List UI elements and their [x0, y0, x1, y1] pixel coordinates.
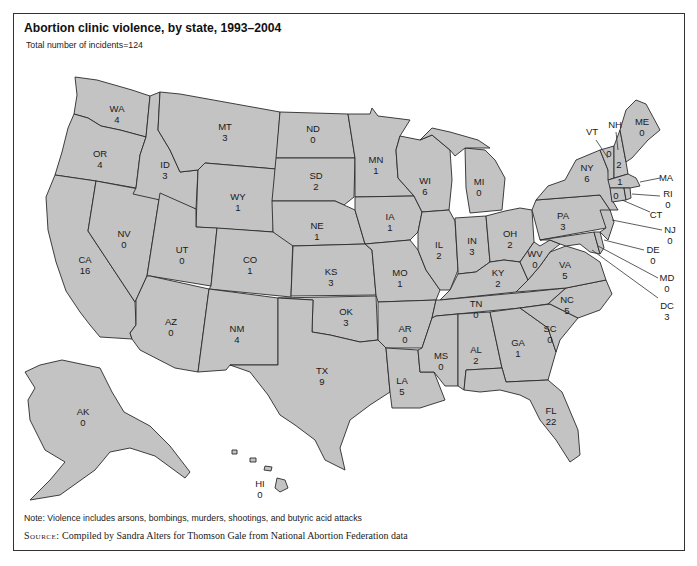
state-ak [25, 360, 190, 500]
svg-text:1: 1 [617, 176, 622, 187]
svg-text:DC3: DC3 [660, 300, 674, 322]
footnote: Note: Violence includes arsons, bombings… [24, 512, 362, 523]
total-incidents: Total number of incidents=124 [26, 39, 143, 50]
state-mi [465, 148, 505, 213]
source-keyword: Source: [24, 530, 60, 541]
svg-text:0: 0 [613, 190, 618, 201]
svg-text:NH: NH [608, 119, 622, 130]
state-hi-maui [264, 466, 272, 471]
state-hi-big [275, 478, 288, 492]
leader-nj [612, 220, 662, 230]
svg-text:2: 2 [616, 159, 621, 170]
map-title: Abortion clinic violence, by state, 1993… [24, 20, 281, 35]
svg-text:MD0: MD0 [660, 272, 675, 294]
leader-ma [640, 178, 660, 182]
leader-ct [622, 200, 650, 212]
source-text: Compiled by Sandra Alters for Thomson Ga… [60, 530, 408, 541]
svg-text:CT: CT [650, 209, 663, 220]
svg-text:VT: VT [586, 126, 598, 137]
svg-text:FL22: FL22 [545, 405, 556, 427]
leader-ri [632, 194, 660, 196]
us-choropleth-map: WA4 OR4 CA16 NV0 ID3 MT3 WY1 UT0 CO1 AZ0… [0, 0, 697, 566]
state-mt [158, 92, 280, 172]
svg-text:0: 0 [606, 148, 611, 159]
svg-text:CA16: CA16 [78, 254, 92, 276]
state-fl [464, 368, 580, 462]
source-line: Source: Compiled by Sandra Alters for Th… [24, 530, 408, 541]
leader-de [604, 240, 644, 250]
svg-text:DE0: DE0 [646, 244, 659, 266]
svg-text:MA: MA [659, 172, 674, 183]
state-hi-oahu [250, 458, 256, 462]
svg-text:NJ0: NJ0 [664, 224, 676, 246]
svg-text:HI0: HI0 [255, 478, 265, 500]
svg-text:RI0: RI0 [663, 188, 673, 210]
state-hi-kauai [232, 450, 237, 454]
